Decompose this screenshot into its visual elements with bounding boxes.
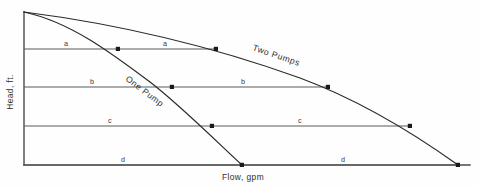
axis-frame xyxy=(24,12,470,165)
grid-lines-group xyxy=(24,49,458,165)
marker-one-pump-d xyxy=(240,163,244,167)
curves-group xyxy=(24,12,458,165)
intersection-markers-group xyxy=(116,47,460,167)
marker-two-pumps-c xyxy=(408,124,412,128)
marker-two-pumps-a xyxy=(214,47,218,51)
y-axis-title: Head, ft. xyxy=(5,74,15,110)
marker-one-pump-b xyxy=(170,85,174,89)
segment-label-d-left: d xyxy=(121,155,125,164)
pump-curve-figure: a a b b c c d d One Pump Two Pumps Head,… xyxy=(0,0,478,187)
pump-chart-svg: a a b b c c d d One Pump Two Pumps Head,… xyxy=(0,0,478,187)
curve-labels-group: One Pump Two Pumps xyxy=(124,42,302,108)
segment-label-a-left: a xyxy=(64,39,68,48)
marker-one-pump-c xyxy=(210,124,214,128)
segment-label-b-right: b xyxy=(241,77,245,86)
x-axis-title: Flow, gpm xyxy=(222,172,264,182)
curve-two-pumps xyxy=(24,12,458,165)
axis-titles-group: Head, ft. Flow, gpm xyxy=(5,74,264,182)
marker-two-pumps-d xyxy=(456,163,460,167)
segment-label-c-right: c xyxy=(298,116,302,125)
marker-two-pumps-b xyxy=(326,85,330,89)
segment-labels-group: a a b b c c d d xyxy=(64,39,345,164)
segment-label-b-left: b xyxy=(90,77,94,86)
segment-label-c-left: c xyxy=(108,116,112,125)
segment-label-d-right: d xyxy=(341,155,345,164)
marker-one-pump-a xyxy=(116,47,120,51)
segment-label-a-right: a xyxy=(163,39,167,48)
